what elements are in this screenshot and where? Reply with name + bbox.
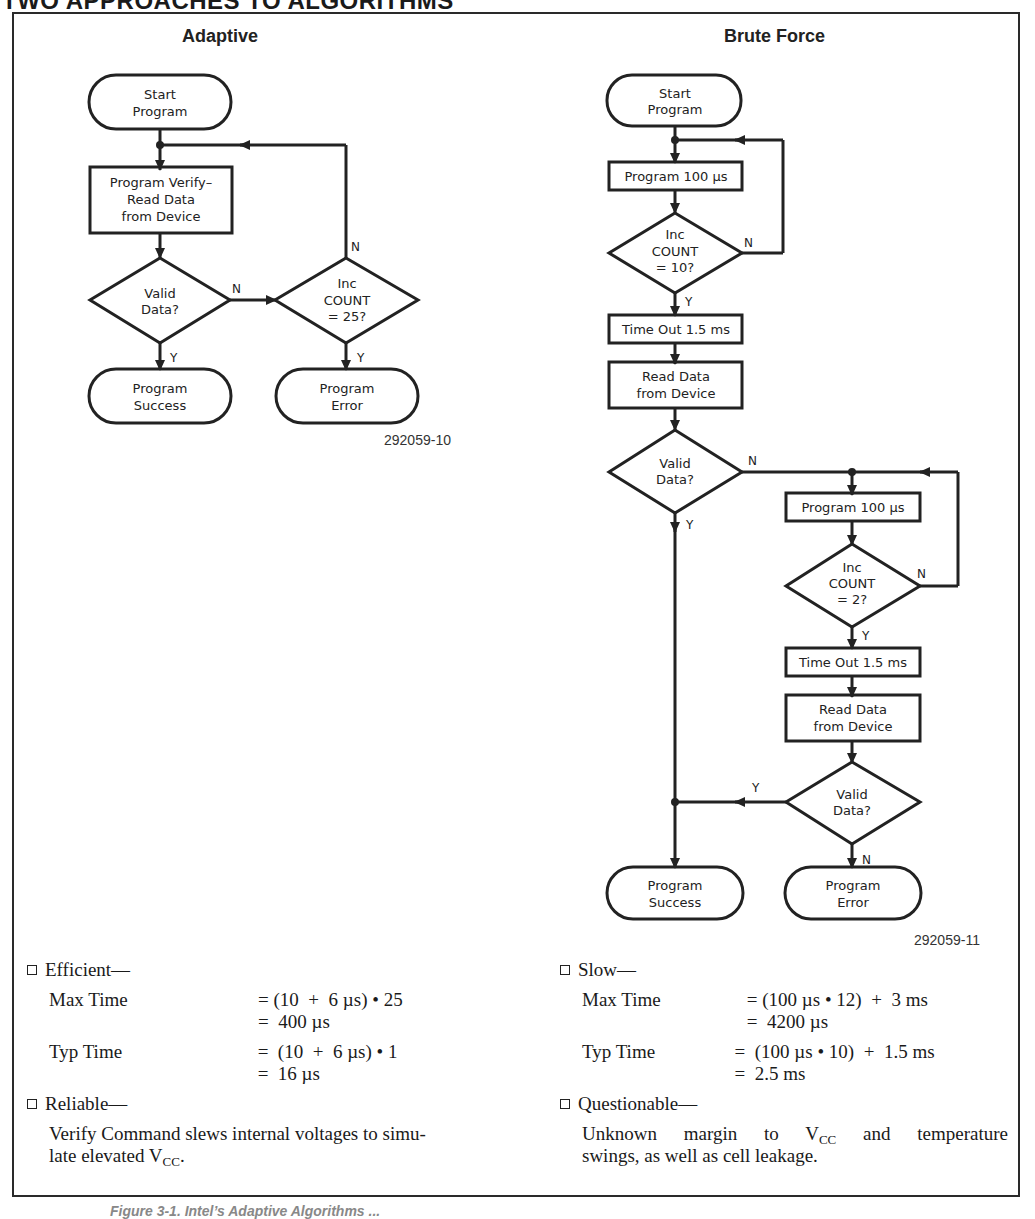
typ-time-equation: Typ Time = (10 + 6 µs) • 1 = 16 µs xyxy=(49,1041,527,1085)
bf-inc1-label: = 10? xyxy=(656,260,694,275)
edge-label-y: Y xyxy=(684,295,693,309)
adaptive-start-terminal xyxy=(89,75,231,129)
adaptive-success-terminal xyxy=(89,369,231,423)
bf-figure-id: 292059-11 xyxy=(914,932,980,948)
adaptive-start-label: Program xyxy=(133,104,188,119)
bf-success-label: Program xyxy=(648,878,703,893)
bf-start-label: Start xyxy=(659,86,691,101)
edge-label-y: Y xyxy=(861,629,870,643)
edge-label-n: N xyxy=(917,567,926,581)
edge-label-y: Y xyxy=(169,351,178,365)
checkbox-square-icon xyxy=(27,965,37,975)
slow-bullet: Slow— xyxy=(560,959,1008,981)
max-time-label: Max Time xyxy=(582,989,741,1011)
para-line: Verify Command slews internal voltages t… xyxy=(49,1123,527,1145)
bf-valid2-label: Valid xyxy=(836,787,867,802)
adaptive-success-label: Program xyxy=(133,381,188,396)
edge-label-n: N xyxy=(232,282,241,296)
bf-success-terminal xyxy=(607,867,743,919)
reliable-description: Verify Command slews internal voltages t… xyxy=(49,1123,527,1167)
para-text: Unknown margin to V xyxy=(582,1123,819,1144)
bf-timeout2-label: Time Out 1.5 ms xyxy=(798,655,907,670)
bf-inc1-label: COUNT xyxy=(652,244,699,259)
efficient-heading: Efficient— xyxy=(45,959,130,981)
adaptive-success-label: Success xyxy=(134,398,187,413)
adaptive-notes: Efficient— Max Time = (10 + 6 µs) • 25 =… xyxy=(27,959,527,1167)
bf-valid2-label: Data? xyxy=(833,803,871,818)
edge-label-y: Y xyxy=(356,351,365,365)
bf-timeout1-label: Time Out 1.5 ms xyxy=(621,322,730,337)
reliable-heading: Reliable— xyxy=(45,1093,127,1115)
edge-label-y: Y xyxy=(751,781,760,795)
adaptive-start-label: Start xyxy=(144,87,176,102)
bf-inc1-label: Inc xyxy=(665,227,684,242)
edge-label-n: N xyxy=(862,853,871,867)
flowcharts: Start Program Program Verify– Read Data … xyxy=(0,0,1035,960)
adaptive-valid-label: Valid xyxy=(144,286,175,301)
adaptive-inc-label: Inc xyxy=(337,276,356,291)
adaptive-verify-label: Read Data xyxy=(127,192,195,207)
checkbox-square-icon xyxy=(560,965,570,975)
bf-program2-label: Program 100 µs xyxy=(802,500,905,515)
adaptive-valid-label: Data? xyxy=(141,302,179,317)
para-line: late elevated VCC. xyxy=(49,1145,527,1167)
edge-label-n: N xyxy=(351,240,360,254)
checkbox-square-icon xyxy=(27,1099,37,1109)
questionable-bullet: Questionable— xyxy=(560,1093,1008,1115)
bf-program1-label: Program 100 µs xyxy=(625,169,728,184)
adaptive-verify-label: from Device xyxy=(122,209,201,224)
bf-error-label: Program xyxy=(826,878,881,893)
slow-heading: Slow— xyxy=(578,959,636,981)
junction-dot xyxy=(671,136,679,144)
bf-read1-label: Read Data xyxy=(642,369,710,384)
max-time-result: = 400 µs xyxy=(258,1011,527,1033)
bf-inc2-label: COUNT xyxy=(829,576,876,591)
brute-force-notes: Slow— Max Time = (100 µs • 12) + 3 ms = … xyxy=(560,959,1008,1167)
figure-caption: Figure 3-1. Intel’s Adaptive Algorithms … xyxy=(110,1203,380,1219)
junction-dot xyxy=(671,798,679,806)
max-time-result: = 4200 µs xyxy=(747,1011,1008,1033)
bf-success-label: Success xyxy=(649,895,702,910)
edge-label-y: Y xyxy=(685,518,694,532)
bf-valid1-label: Valid xyxy=(659,456,690,471)
edge-label-n: N xyxy=(748,454,757,468)
subscript: CC xyxy=(163,1154,180,1169)
max-time-expr: = (100 µs • 12) + 3 ms xyxy=(747,989,1008,1011)
bf-error-terminal xyxy=(785,867,921,919)
typ-time-expr: = (10 + 6 µs) • 1 xyxy=(258,1041,527,1063)
reliable-bullet: Reliable— xyxy=(27,1093,527,1115)
para-text: late elevated V xyxy=(49,1145,163,1166)
efficient-bullet: Efficient— xyxy=(27,959,527,981)
adaptive-error-label: Program xyxy=(320,381,375,396)
para-line: Unknown margin to VCC and temperature xyxy=(582,1123,1008,1145)
typ-time-expr: = (100 µs • 10) + 1.5 ms xyxy=(735,1041,1008,1063)
typ-time-label: Typ Time xyxy=(49,1041,252,1063)
para-text: . xyxy=(180,1145,185,1166)
bf-valid1-label: Data? xyxy=(656,472,694,487)
typ-time-result: = 16 µs xyxy=(258,1063,527,1085)
adaptive-figure-id: 292059-10 xyxy=(384,432,451,448)
typ-time-label: Typ Time xyxy=(582,1041,729,1063)
bf-read2-label: Read Data xyxy=(819,702,887,717)
para-line: swings, as well as cell leakage. xyxy=(582,1145,1008,1167)
adaptive-error-label: Error xyxy=(331,398,363,413)
bf-inc2-label: = 2? xyxy=(837,592,867,607)
max-time-expr: = (10 + 6 µs) • 25 xyxy=(258,989,527,1011)
questionable-description: Unknown margin to VCC and temperature sw… xyxy=(582,1123,1008,1167)
subscript: CC xyxy=(819,1132,836,1147)
max-time-equation: Max Time = (100 µs • 12) + 3 ms = 4200 µ… xyxy=(582,989,1008,1033)
bf-read1-label: from Device xyxy=(637,386,716,401)
adaptive-verify-label: Program Verify– xyxy=(110,175,212,190)
junction-dot xyxy=(848,468,856,476)
adaptive-error-terminal xyxy=(276,369,418,423)
edge-label-n: N xyxy=(744,236,753,250)
typ-time-equation: Typ Time = (100 µs • 10) + 1.5 ms = 2.5 … xyxy=(582,1041,1008,1085)
questionable-heading: Questionable— xyxy=(578,1093,697,1115)
bf-inc2-label: Inc xyxy=(842,560,861,575)
typ-time-result: = 2.5 ms xyxy=(735,1063,1008,1085)
bf-start-label: Program xyxy=(648,102,703,117)
checkbox-square-icon xyxy=(560,1099,570,1109)
bf-error-label: Error xyxy=(837,895,869,910)
adaptive-inc-label: = 25? xyxy=(328,309,366,324)
para-text: and temperature xyxy=(836,1123,1008,1144)
